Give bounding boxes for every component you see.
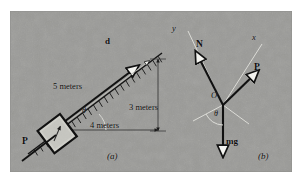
label-angle-theta-b: θ: [214, 110, 218, 118]
figure-canvas: [10, 11, 292, 172]
label-3-meters: 3 meters: [129, 103, 158, 112]
panel-caption-b: (b): [258, 152, 269, 161]
label-origin-o: O: [211, 91, 217, 100]
label-displacement-d: d: [105, 37, 110, 46]
label-normal-force-n: N: [196, 40, 203, 50]
label-force-p-b: P: [254, 63, 260, 73]
label-axis-y: y: [172, 24, 176, 33]
label-4-meters: 4 meters: [90, 121, 119, 130]
panel-caption-a: (a): [107, 152, 118, 161]
label-angle-theta-a: θ: [82, 107, 86, 115]
label-5-meters: 5 meters: [53, 82, 82, 91]
figure-plate: d 5 meters 3 meters 4 meters P θ (a) y N…: [10, 11, 292, 172]
physics-figure: d 5 meters 3 meters 4 meters P θ (a) y N…: [0, 0, 302, 181]
label-weight-mg: mg: [226, 137, 238, 146]
label-axis-x: x: [252, 33, 256, 42]
label-force-p-a: P: [22, 137, 28, 147]
